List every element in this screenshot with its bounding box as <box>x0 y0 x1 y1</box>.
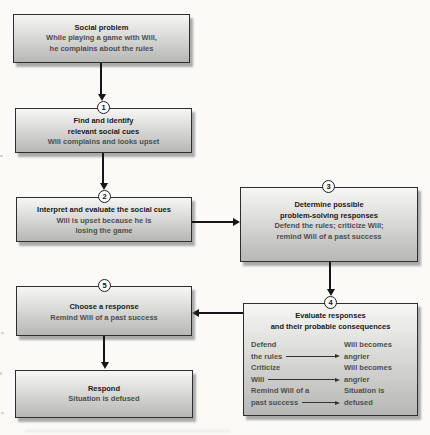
step-number-5: 5 <box>98 279 111 292</box>
box-title-line: problem-solving responses <box>280 211 378 222</box>
outcome-line: Situation is <box>344 385 410 397</box>
box-detail-line: losing the game <box>75 226 132 237</box>
connector-line <box>100 63 102 94</box>
option-line: the rules <box>251 351 282 363</box>
maps-to-arrowhead-icon <box>335 354 340 358</box>
scan-artifact <box>0 372 2 375</box>
step-number-3: 3 <box>322 180 335 193</box>
consequence-row: Remind Will of a past success Situation … <box>251 385 410 408</box>
box-find-cues: Find and identify relevant social cues W… <box>15 108 192 153</box>
box-detail-line: Situation is defused <box>68 394 139 405</box>
option-line: Defend <box>251 339 344 351</box>
connector-line <box>192 221 233 223</box>
consequence-row: Criticize Will Will becomes angrier <box>251 362 410 385</box>
outcome-line: Will becomes <box>344 339 410 351</box>
box-detail-line: he complains about the rules <box>50 44 154 55</box>
outcome-line: angrier <box>344 374 410 386</box>
box-social-problem: Social problem While playing a game with… <box>13 14 190 63</box>
arrowhead-down-icon <box>101 362 109 369</box>
connector-line <box>199 312 243 314</box>
box-choose-response: Choose a response Remind Will of a past … <box>16 286 192 336</box>
maps-to-line <box>268 379 335 380</box>
step-number-1: 1 <box>97 101 110 114</box>
arrowhead-down-icon <box>327 289 335 296</box>
box-title-line: and their probable consequences <box>271 322 391 333</box>
connector-line <box>103 336 105 362</box>
box-respond: Respond Situation is defused <box>15 370 193 418</box>
maps-to-arrowhead-icon <box>335 401 340 405</box>
option-line: Criticize <box>251 362 344 374</box>
box-title: Respond <box>88 384 120 395</box>
box-title-line: Interpret and evaluate the social cues <box>37 205 171 216</box>
arrowhead-down-icon <box>100 183 108 190</box>
box-evaluate-responses: Evaluate responses and their probable co… <box>243 303 418 416</box>
box-title-line: Choose a response <box>69 302 138 313</box>
flowchart-canvas: Social problem While playing a game with… <box>0 0 430 435</box>
option-line: past success <box>251 397 298 409</box>
maps-to-line <box>302 402 335 403</box>
maps-to-line <box>286 356 335 357</box>
arrowhead-right-icon <box>233 218 240 226</box>
outcome-line: angrier <box>344 351 410 363</box>
box-detail-line: Will complains and looks upset <box>48 137 160 148</box>
arrowhead-down-icon <box>98 94 106 101</box>
connector-line <box>329 262 331 289</box>
box-title: Social problem <box>75 23 129 34</box>
box-interpret-cues: Interpret and evaluate the social cues W… <box>16 197 192 242</box>
box-title-line: Determine possible <box>294 200 363 211</box>
box-detail-line: remind Will of a past success <box>277 232 382 243</box>
outcome-line: Will becomes <box>344 362 410 374</box>
connector-line <box>102 153 104 183</box>
scan-artifact <box>1 412 4 414</box>
box-detail-line: While playing a game with Will, <box>46 33 157 44</box>
scan-artifact <box>25 430 230 432</box>
box-title-line: Find and identify <box>74 116 134 127</box>
maps-to-arrowhead-icon <box>335 378 340 382</box>
outcome-line: defused <box>344 397 410 409</box>
scan-artifact <box>0 155 3 157</box>
box-detail-line: Defend the rules; criticize Will; <box>274 221 383 232</box>
box-determine-responses: Determine possible problem-solving respo… <box>240 187 418 262</box>
step-number-4: 4 <box>324 296 337 309</box>
consequence-row: Defend the rules Will becomes angrier <box>251 339 410 362</box>
arrowhead-left-icon <box>192 309 199 317</box>
box-title-line: relevant social cues <box>68 127 139 138</box>
box-detail-line: Remind Will of a past success <box>50 313 157 324</box>
consequence-rows: Defend the rules Will becomes angrier Cr… <box>244 339 417 409</box>
box-title-line: Evaluate responses <box>295 311 365 322</box>
scan-artifact <box>1 332 4 334</box>
step-number-2: 2 <box>98 190 111 203</box>
box-detail-line: Will is upset because he is <box>57 216 152 227</box>
option-line: Remind Will of a <box>251 385 344 397</box>
option-line: Will <box>251 374 264 386</box>
